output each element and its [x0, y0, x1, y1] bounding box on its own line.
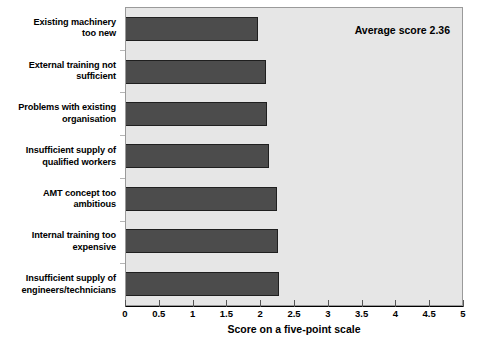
- average-score-annotation: Average score 2.36: [355, 24, 450, 36]
- x-tick-mark: [328, 300, 329, 307]
- x-tick-label: 1: [190, 308, 195, 319]
- x-tick-label: 4.5: [423, 308, 436, 319]
- x-tick-label: 3: [325, 308, 330, 319]
- x-tick-label: 2.5: [287, 308, 300, 319]
- x-tick-mark: [395, 300, 396, 307]
- bar[interactable]: [125, 187, 277, 211]
- bar-slot: [126, 178, 462, 220]
- x-tick-mark: [125, 300, 126, 307]
- bar[interactable]: [125, 17, 258, 41]
- category-label-line2: too new: [82, 28, 116, 38]
- category-label-line1: External training not: [29, 60, 116, 70]
- category-label: Internal training too expensive: [0, 221, 120, 264]
- category-label: Existing machinery too new: [0, 7, 120, 50]
- category-label-line2: expensive: [72, 242, 116, 252]
- bar-slot: [126, 135, 462, 177]
- x-tick-label: 5: [460, 308, 465, 319]
- x-tick-label: 0.5: [152, 308, 165, 319]
- x-tick-mark: [362, 300, 363, 307]
- category-label: Insufficient supply of engineers/technic…: [0, 263, 120, 306]
- category-label-line2: qualified workers: [42, 157, 116, 167]
- x-tick-mark: [226, 300, 227, 307]
- bar[interactable]: [125, 229, 278, 253]
- bar[interactable]: [125, 272, 279, 296]
- bar-slot: [126, 50, 462, 92]
- bars-layer: [126, 8, 462, 305]
- category-tick-mark: [120, 221, 125, 222]
- x-tick-mark: [463, 300, 464, 307]
- category-tick-mark: [120, 50, 125, 51]
- category-axis-labels: Existing machinery too new External trai…: [0, 7, 120, 306]
- category-label-line2: organisation: [62, 114, 116, 124]
- category-tick-mark: [120, 92, 125, 93]
- category-label-line1: AMT concept too: [43, 188, 116, 198]
- category-tick-mark: [120, 135, 125, 136]
- x-tick-label: 3.5: [355, 308, 368, 319]
- category-label-line2: engineers/technicians: [22, 285, 116, 295]
- x-axis-tick-labels: 00.511.522.533.544.55: [125, 308, 463, 322]
- x-tick-mark: [429, 300, 430, 307]
- bar-slot: [126, 93, 462, 135]
- bar-slot: [126, 220, 462, 262]
- category-label-line1: Insufficient supply of: [26, 145, 116, 155]
- category-tick-mark: [120, 263, 125, 264]
- category-label: Problems with existing organisation: [0, 92, 120, 135]
- x-tick-label: 0: [122, 308, 127, 319]
- x-axis-tick-marks: [125, 300, 463, 307]
- category-label-line1: Problems with existing: [18, 102, 116, 112]
- x-tick-label: 1.5: [220, 308, 233, 319]
- category-label-line1: Insufficient supply of: [26, 273, 116, 283]
- category-label: External training not sufficient: [0, 50, 120, 93]
- plot-area: Average score 2.36: [125, 7, 463, 306]
- category-label-line2: sufficient: [76, 71, 116, 81]
- bar[interactable]: [125, 102, 267, 126]
- bar[interactable]: [125, 60, 266, 84]
- bar-chart: Existing machinery too new External trai…: [0, 0, 478, 343]
- x-axis-title: Score on a five-point scale: [125, 323, 463, 335]
- bar[interactable]: [125, 144, 269, 168]
- x-tick-mark: [294, 300, 295, 307]
- category-label-line2: ambitious: [74, 199, 117, 209]
- x-tick-mark: [260, 300, 261, 307]
- x-tick-mark: [193, 300, 194, 307]
- category-tick-mark: [120, 178, 125, 179]
- x-tick-label: 2: [258, 308, 263, 319]
- x-tick-label: 4: [393, 308, 398, 319]
- category-label-line1: Existing machinery: [34, 17, 116, 27]
- category-label: Insufficient supply of qualified workers: [0, 135, 120, 178]
- category-label-line1: Internal training too: [32, 230, 116, 240]
- category-label: AMT concept too ambitious: [0, 178, 120, 221]
- bar-slot: [126, 263, 462, 305]
- x-tick-mark: [159, 300, 160, 307]
